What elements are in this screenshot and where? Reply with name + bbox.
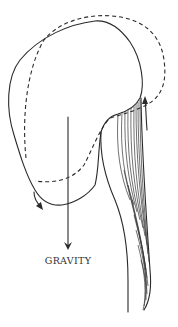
head-gravity-diagram: GRAVITY — [0, 0, 178, 327]
neck-muscles-hatching — [118, 98, 151, 310]
neck-front-line — [101, 132, 128, 312]
gravity-arrow — [64, 117, 72, 250]
head-outline-dashed — [25, 16, 165, 182]
rotation-arrow-back — [142, 96, 148, 130]
gravity-label: GRAVITY — [45, 255, 92, 266]
